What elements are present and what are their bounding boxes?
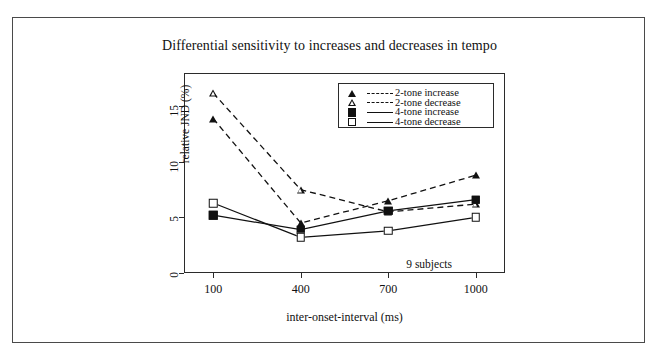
data-point (209, 211, 218, 220)
x-tick-mark (388, 273, 389, 278)
x-tick-label: 700 (358, 282, 418, 297)
triangle-filled-icon (209, 115, 217, 122)
data-point (472, 213, 481, 222)
square-filled-icon (209, 211, 218, 220)
data-point (384, 227, 393, 236)
x-tick-mark (301, 273, 302, 278)
triangle-open-icon (209, 90, 217, 97)
triangle-open-icon (297, 186, 305, 193)
x-tick-label: 400 (271, 282, 331, 297)
legend-line-sample (365, 112, 395, 113)
square-open-icon (384, 227, 393, 236)
square-open-icon (472, 213, 481, 222)
legend-label: 4-tone decrease (395, 117, 461, 127)
x-tick-label: 1000 (446, 282, 506, 297)
square-open-icon (209, 199, 218, 208)
legend: 2-tone increase2-tone decrease4-tone inc… (338, 83, 494, 128)
x-tick-mark (476, 273, 477, 278)
x-tick-mark (213, 273, 214, 278)
triangle-open-icon (348, 99, 356, 106)
data-point (297, 186, 305, 193)
square-filled-icon (384, 207, 393, 216)
legend-line-sample (365, 122, 395, 123)
legend-marker (339, 90, 365, 97)
legend-line-sample (365, 93, 395, 94)
legend-marker (339, 118, 365, 127)
legend-marker (339, 108, 365, 117)
y-tick-label: 5 (168, 216, 180, 256)
data-point (209, 90, 217, 97)
series-line (213, 200, 476, 230)
triangle-filled-icon (384, 197, 392, 204)
legend-line (367, 122, 393, 123)
chart-title: Differential sensitivity to increases an… (13, 38, 646, 54)
triangle-filled-icon (348, 90, 356, 97)
y-axis-label: relative JND (%) (179, 85, 191, 164)
legend-line (367, 102, 393, 103)
series-line (213, 119, 476, 223)
square-filled-icon (472, 195, 481, 204)
square-open-icon (348, 118, 357, 127)
y-tick-label: 15 (168, 105, 180, 145)
data-point (209, 115, 217, 122)
subjects-annotation: 9 subjects (406, 258, 452, 270)
legend-line (367, 93, 393, 94)
x-tick-label: 100 (183, 282, 243, 297)
data-point (472, 172, 480, 179)
legend-line (367, 112, 393, 113)
legend-item: 4-tone decrease (339, 117, 495, 127)
legend-line-sample (365, 102, 395, 103)
square-filled-icon (348, 108, 357, 117)
data-point (296, 233, 305, 242)
data-point (384, 197, 392, 204)
y-tick-label: 10 (168, 161, 180, 201)
figure-frame: Differential sensitivity to increases an… (12, 17, 645, 343)
square-open-icon (296, 233, 305, 242)
data-point (472, 195, 481, 204)
x-axis-label: inter-onset-interval (ms) (184, 310, 505, 325)
y-tick-label: 0 (168, 272, 180, 312)
triangle-filled-icon (472, 172, 480, 179)
legend-marker (339, 99, 365, 106)
data-point (209, 199, 218, 208)
data-point (384, 207, 393, 216)
